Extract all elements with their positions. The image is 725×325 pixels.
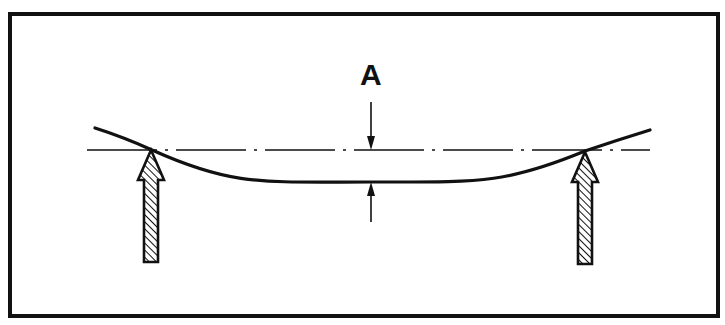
dimension-up-arrowhead-icon [367, 182, 375, 196]
left-support-arrow-icon [138, 150, 164, 262]
deflection-label: A [360, 60, 382, 90]
beam-deflection-diagram: A [0, 0, 725, 325]
diagram-canvas [0, 0, 725, 325]
dimension-down-arrowhead-icon [367, 136, 375, 150]
right-support-arrow-icon [572, 152, 598, 264]
deflection-dimension [367, 102, 375, 222]
